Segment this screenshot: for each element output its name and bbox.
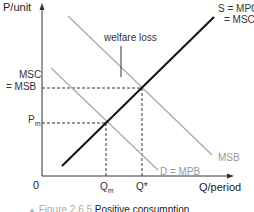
msb-label: MSB — [218, 152, 240, 163]
pm-label-main: P — [28, 114, 35, 125]
demand-label: D = MPB — [160, 166, 200, 177]
pm-label: Pm — [28, 114, 41, 129]
y-axis-arrow-icon — [40, 3, 45, 10]
x-axis-arrow-icon — [227, 174, 234, 179]
welfare-loss-label: welfare loss — [104, 32, 157, 43]
y-axis-label: P/unit — [3, 2, 31, 13]
figure-caption: ▲ Figure 2.6.5 Positive consumption — [28, 204, 189, 212]
qm-label-main: Q — [100, 181, 108, 192]
origin-label: 0 — [33, 180, 39, 191]
x-axis-label: Q/period — [199, 182, 241, 193]
supply-label-line1: S = MPC — [218, 3, 254, 14]
supply-label-line2: = MSC — [224, 14, 254, 25]
qstar-label: Q* — [136, 181, 148, 192]
msc-label-line2: = MSB — [6, 81, 36, 92]
pm-label-sub: m — [35, 120, 41, 127]
msc-label-line1: MSC — [19, 69, 41, 80]
qm-label: Qm — [100, 181, 114, 196]
caption-title: Positive consumption — [95, 204, 190, 212]
qm-label-sub: m — [108, 187, 114, 194]
caption-number: Figure 2.6.5 — [39, 204, 92, 212]
caption-marker-icon: ▲ — [28, 206, 36, 212]
